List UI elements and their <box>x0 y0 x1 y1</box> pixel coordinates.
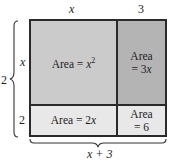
vertical-divider <box>116 19 118 137</box>
side-label-x: x <box>20 56 25 68</box>
horizontal-divider <box>29 104 167 106</box>
top-label-3: 3 <box>138 3 144 15</box>
left-total-label: 2 <box>1 74 7 86</box>
top-label-x: x <box>69 3 74 15</box>
left-brace <box>8 20 20 138</box>
bottom-total-label: x + 3 <box>87 148 112 160</box>
outer-rectangle <box>29 19 167 137</box>
